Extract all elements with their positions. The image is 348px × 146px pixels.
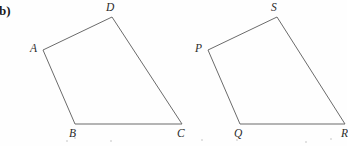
vertex-label-c: C xyxy=(177,128,185,140)
vertex-label-a: A xyxy=(30,43,37,55)
scan-speck xyxy=(74,137,76,139)
scan-speck xyxy=(201,139,203,141)
quadrilateral-pqrs-outline xyxy=(208,17,345,124)
scan-speck xyxy=(236,139,238,141)
vertex-label-p: P xyxy=(195,43,202,55)
scan-speck xyxy=(66,140,68,142)
vertex-label-q: Q xyxy=(234,128,242,140)
vertex-label-s: S xyxy=(271,2,277,14)
quadrilateral-abcd-outline xyxy=(43,17,182,124)
vertex-label-r: R xyxy=(341,128,348,140)
part-label-b: b) xyxy=(0,4,11,17)
scan-speck xyxy=(330,138,332,140)
vertex-label-d: D xyxy=(106,2,114,14)
scan-speck xyxy=(305,141,307,143)
scan-speck xyxy=(110,140,112,142)
shape-quadrilateral-abcd xyxy=(43,17,182,124)
shape-quadrilateral-pqrs xyxy=(208,17,345,124)
